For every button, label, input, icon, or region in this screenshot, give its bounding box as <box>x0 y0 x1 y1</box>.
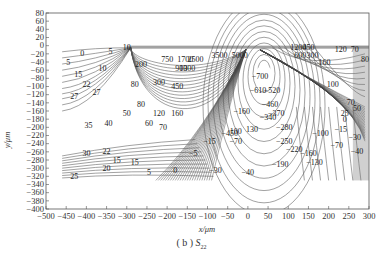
contour-label: 450 <box>171 82 183 91</box>
contour-label: 0 <box>80 49 84 58</box>
x-tick-label: −300 <box>118 211 136 221</box>
contour-label: 25 <box>70 172 78 181</box>
contour-label: 5000 <box>232 51 248 60</box>
contour-label: −30 <box>209 166 222 175</box>
contour-label: 300 <box>306 51 318 60</box>
contour-label: 70 <box>159 123 167 132</box>
contour-label: −520 <box>264 86 281 95</box>
contour-label: −70 <box>330 141 343 150</box>
contour-label: 35 <box>84 121 92 130</box>
x-tick-label: −400 <box>78 211 96 221</box>
contour-label: 300 <box>153 78 165 87</box>
contour-label: −15 <box>203 137 216 146</box>
contour-label: 10 <box>123 43 131 52</box>
x-tick-label: 0 <box>246 211 250 221</box>
contour-label: 20 <box>103 164 111 173</box>
contour-label: 40 <box>105 119 113 128</box>
contour-label: 5 <box>147 168 151 177</box>
contour-label: −70 <box>230 137 243 146</box>
contour-label: 10 <box>99 64 107 73</box>
x-tick-label: 150 <box>302 211 315 221</box>
contour-label: 750 <box>161 55 173 64</box>
contour-label: 100 <box>230 127 242 136</box>
contour-label: 5 <box>66 58 70 67</box>
x-tick-label: −450 <box>57 211 75 221</box>
contour-label: 22 <box>82 80 90 89</box>
x-tick-label: −250 <box>138 211 156 221</box>
contour-label: 160 <box>319 58 331 67</box>
contour-label: 200 <box>135 60 147 69</box>
x-tick-label: 300 <box>363 211 376 221</box>
contour-chart: 806040200−20−40−60−80−100−120−140−160−18… <box>0 0 383 262</box>
x-tick-label: 100 <box>282 211 295 221</box>
contour-label: 160 <box>171 109 183 118</box>
contour-label: −40 <box>351 147 364 156</box>
contour-label: 80 <box>361 55 369 64</box>
contour-label: −280 <box>276 123 293 132</box>
contour-label: 1300 <box>179 64 195 73</box>
x-tick-label: 50 <box>264 211 273 221</box>
contour-label: 50 <box>123 109 131 118</box>
x-tick-label: −500 <box>37 211 55 221</box>
x-tick-label: −100 <box>199 211 217 221</box>
contour-label: 80 <box>131 80 139 89</box>
x-tick-label: 250 <box>342 211 355 221</box>
contour-label: −160 <box>234 107 251 116</box>
contour-label: 120 <box>153 109 165 118</box>
contour-label: 100 <box>327 80 339 89</box>
contour-label: 50 <box>353 104 361 113</box>
caption-subscript: 22 <box>201 244 207 250</box>
contour-label: 15 <box>113 156 121 165</box>
contour-label: −130 <box>306 158 323 167</box>
contour-label: 27 <box>70 92 78 101</box>
contour-label: 130 <box>246 125 258 134</box>
x-tick-label: −350 <box>98 211 116 221</box>
contour-label: 30 <box>82 149 90 158</box>
contour-label: −5 <box>189 149 198 158</box>
contour-label: −700 <box>252 72 269 81</box>
contour-label: 60 <box>145 119 153 128</box>
contour-label: 3500 <box>212 51 228 60</box>
x-tick-label: −50 <box>221 211 234 221</box>
contour-label: −100 <box>312 129 329 138</box>
contour-label: 70 <box>351 45 359 54</box>
x-axis-title: x/μm <box>198 224 216 234</box>
contour-label: 80 <box>137 100 145 109</box>
contour-label: 120 <box>335 45 347 54</box>
contour-label: 5 <box>109 47 113 56</box>
x-tick-label: 200 <box>322 211 335 221</box>
contour-label: −340 <box>260 113 277 122</box>
contour-label: −190 <box>272 160 289 169</box>
caption-prefix: ( b ) <box>176 237 193 248</box>
contour-label: 27 <box>92 88 100 97</box>
figure-caption: ( b ) S22 <box>0 237 383 250</box>
y-axis-title: y/μm <box>2 132 12 150</box>
contour-label: −15 <box>334 125 347 134</box>
x-tick-label: −150 <box>179 211 197 221</box>
contour-label: −40 <box>242 168 255 177</box>
contour-label: 0 <box>173 166 177 175</box>
contour-label: 15 <box>131 158 139 167</box>
contour-label: 2500 <box>187 55 203 64</box>
contour-label: −30 <box>349 133 362 142</box>
contour-label: 15 <box>74 70 82 79</box>
contour-label: 22 <box>103 147 111 156</box>
x-tick-label: −200 <box>158 211 176 221</box>
contour-label: 600 <box>294 51 306 60</box>
contour-label: 0 <box>343 115 347 124</box>
